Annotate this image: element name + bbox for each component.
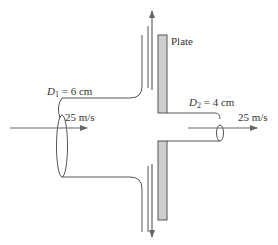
outlet-jet [167, 113, 224, 141]
jet-plate-diagram: Plate D1 = 6 cm 25 m/s D2 = 4 cm 25 m/s [0, 0, 278, 245]
inlet-jet [57, 35, 143, 232]
plate-label: Plate [171, 35, 193, 47]
d2-symbol: D [188, 96, 197, 108]
outlet-jet-upper-boundary [167, 113, 220, 119]
d2-label: D2 = 4 cm [188, 96, 235, 110]
d1-symbol: D [46, 85, 55, 97]
plate [158, 35, 167, 220]
d2-value: = 4 cm [201, 96, 235, 108]
d1-label: D1 = 6 cm [46, 85, 93, 99]
inlet-jet-lower-boundary [62, 177, 142, 232]
inlet-jet-cross-section [57, 115, 68, 177]
plate-upper-half [158, 35, 167, 113]
d1-value: = 6 cm [59, 85, 93, 97]
outlet-velocity-label: 25 m/s [238, 111, 268, 123]
inlet-velocity-label: 25 m/s [65, 111, 95, 123]
plate-lower-half [158, 141, 167, 220]
